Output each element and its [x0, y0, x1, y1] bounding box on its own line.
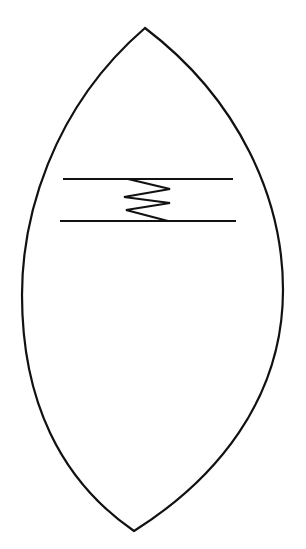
zigzag-line — [124, 179, 170, 221]
lens-outline — [22, 28, 283, 531]
lens-diagram — [0, 0, 306, 549]
